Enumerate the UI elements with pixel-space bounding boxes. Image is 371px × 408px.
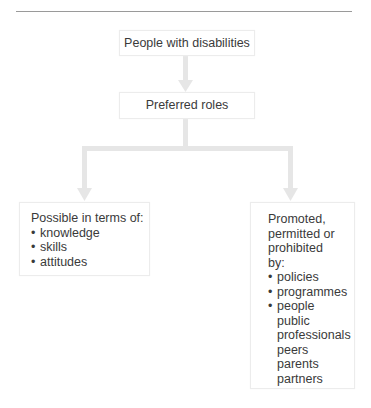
bullet-item: skills <box>31 240 144 255</box>
sub-item: parents <box>268 357 351 372</box>
node-label: People with disabilities <box>124 36 250 50</box>
sub-item: public <box>268 314 351 329</box>
bullet-item: policies <box>268 270 351 285</box>
node-possible-in-terms-of: Possible in terms of: knowledge skills a… <box>19 202 150 276</box>
arrow-root-to-roles <box>178 55 193 92</box>
arrow-to-left-branch <box>77 146 92 201</box>
node-heading-line: prohibited <box>268 241 351 256</box>
node-promoted-permitted-prohibited: Promoted, permitted or prohibited by: po… <box>250 202 355 389</box>
bullet-item: programmes <box>268 285 351 300</box>
sub-item: peers <box>268 343 351 358</box>
arrow-to-right-branch <box>283 146 298 201</box>
branch-stem <box>183 118 188 150</box>
node-heading-line: permitted or <box>268 227 351 242</box>
node-heading-line: Promoted, <box>268 212 351 227</box>
branch-bar <box>82 146 293 151</box>
node-people-with-disabilities: People with disabilities <box>119 30 255 56</box>
sub-item: professionals <box>268 328 351 343</box>
bullet-item: attitudes <box>31 255 144 270</box>
sub-item: partners <box>268 372 351 387</box>
bullet-item: people <box>268 299 351 314</box>
node-preferred-roles: Preferred roles <box>119 92 255 119</box>
bullet-item: knowledge <box>31 226 144 241</box>
node-heading: Possible in terms of: <box>31 211 144 226</box>
node-heading-line: by: <box>268 256 351 271</box>
node-label: Preferred roles <box>146 98 229 112</box>
